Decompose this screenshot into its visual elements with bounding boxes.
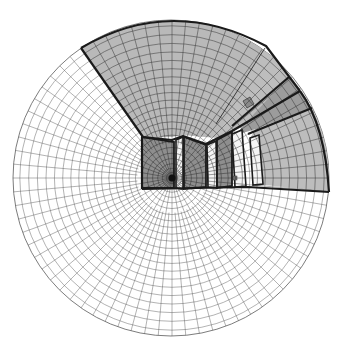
vanishing-point-dot — [169, 175, 176, 182]
fisheye-diagram — [0, 0, 342, 349]
back-wall-right — [217, 132, 232, 188]
fisheye-grid-canvas — [0, 0, 342, 349]
